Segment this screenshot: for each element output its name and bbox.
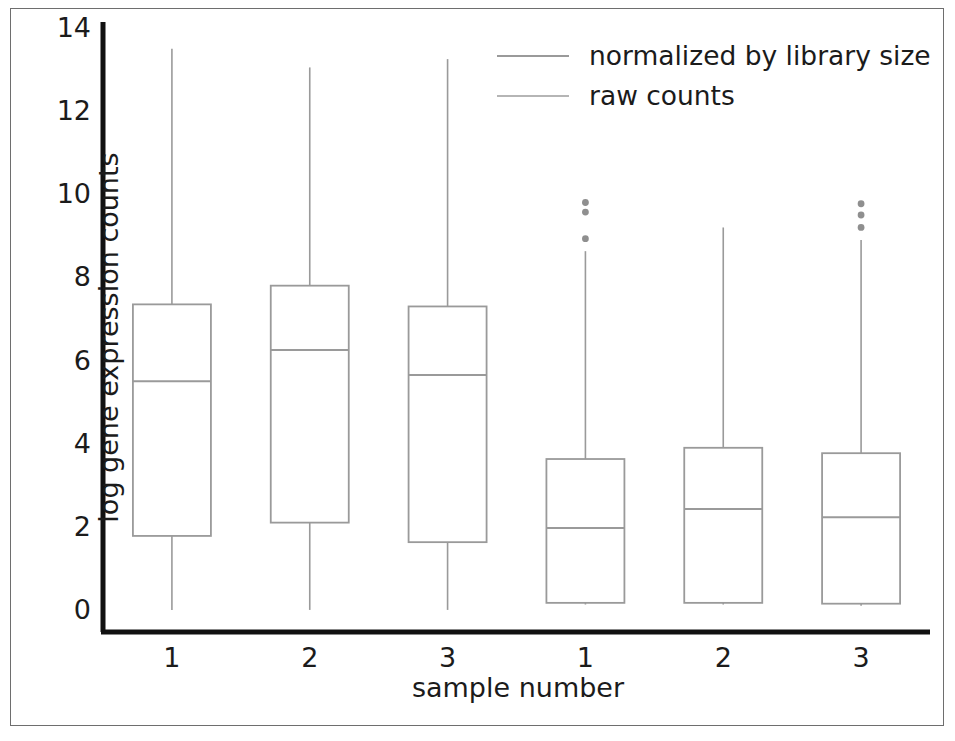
legend-line-icon-normalized [497, 55, 569, 57]
box-body [271, 286, 349, 523]
y-axis-label: log gene expression counts [93, 128, 124, 548]
box-body [546, 459, 624, 603]
legend: normalized by library size raw counts [497, 36, 927, 116]
outlier-point [582, 199, 589, 206]
y-tick-label-0: 0 [31, 594, 91, 625]
box-raw-counts-sample-1 [133, 49, 211, 610]
box-body [133, 304, 211, 536]
legend-line-icon-raw [497, 95, 569, 97]
y-tick-label-2: 2 [31, 511, 91, 542]
box-normalized-sample-3 [822, 200, 900, 605]
x-tick-label-4: 1 [555, 642, 615, 673]
box-body [684, 448, 762, 603]
outlier-point [582, 235, 589, 242]
box-normalized-sample-2 [684, 227, 762, 604]
box-normalized-sample-1 [546, 199, 624, 604]
y-tick-label-4: 4 [31, 428, 91, 459]
outlier-point [582, 209, 589, 216]
x-tick-label-3: 3 [418, 642, 478, 673]
legend-item-normalized: normalized by library size [497, 36, 927, 76]
outlier-point [858, 224, 865, 231]
outlier-point [858, 200, 865, 207]
box-raw-counts-sample-2 [271, 67, 349, 610]
y-tick-label-12: 12 [31, 95, 91, 126]
y-tick-label-14: 14 [31, 12, 91, 43]
legend-item-raw: raw counts [497, 76, 927, 116]
y-tick-label-6: 6 [31, 345, 91, 376]
y-tick-label-8: 8 [31, 261, 91, 292]
box-raw-counts-sample-3 [409, 59, 487, 610]
figure-canvas: log gene expression counts sample number… [0, 0, 955, 741]
legend-label-normalized: normalized by library size [589, 43, 931, 70]
x-axis-label: sample number [103, 672, 933, 703]
x-tick-label-1: 1 [142, 642, 202, 673]
x-tick-label-6: 3 [831, 642, 891, 673]
outlier-point [858, 212, 865, 219]
x-tick-label-5: 2 [693, 642, 753, 673]
box-body [409, 306, 487, 542]
x-tick-label-2: 2 [280, 642, 340, 673]
box-body [822, 453, 900, 603]
legend-label-raw: raw counts [589, 83, 735, 110]
y-tick-label-10: 10 [31, 178, 91, 209]
